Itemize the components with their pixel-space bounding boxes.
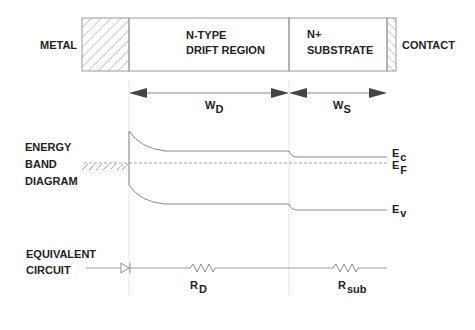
rd-label: RD bbox=[190, 279, 207, 295]
substrate-label-1: N+ bbox=[307, 28, 321, 40]
contact-label: CONTACT bbox=[402, 39, 455, 51]
ws-label: WS bbox=[333, 99, 351, 115]
energy-band-lines bbox=[82, 131, 387, 210]
metal-fermi-hatch bbox=[82, 164, 128, 170]
drift-label-2: DRIFT REGION bbox=[186, 44, 265, 56]
schottky-diode-diagram: METAL N-TYPE DRIFT REGION N+ SUBSTRATE C… bbox=[0, 0, 475, 330]
metal-region bbox=[82, 18, 129, 71]
drift-label-1: N-TYPE bbox=[186, 29, 226, 41]
energy-band-title-1: ENERGY bbox=[25, 141, 72, 153]
contact-region bbox=[387, 18, 396, 71]
valence-band-line bbox=[129, 185, 387, 210]
metal-label: METAL bbox=[40, 39, 77, 51]
conduction-band-line bbox=[129, 131, 387, 157]
energy-band-title-2: BAND bbox=[25, 158, 57, 170]
wd-dimension-arrow bbox=[129, 88, 289, 98]
ev-label: Ev bbox=[392, 203, 407, 219]
circuit-title-2: CIRCUIT bbox=[26, 264, 71, 276]
energy-band-title-3: DIAGRAM bbox=[25, 175, 78, 187]
ws-dimension-arrow bbox=[289, 88, 387, 98]
circuit-title-1: EQUIVALENT bbox=[26, 248, 96, 260]
wd-label: WD bbox=[205, 99, 223, 115]
rd-resistor bbox=[190, 264, 215, 272]
rsub-resistor bbox=[333, 264, 358, 272]
equivalent-circuit bbox=[86, 263, 387, 273]
rsub-label: Rsub bbox=[338, 279, 367, 295]
substrate-label-2: SUBSTRATE bbox=[307, 44, 373, 56]
